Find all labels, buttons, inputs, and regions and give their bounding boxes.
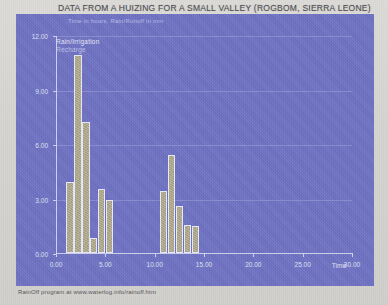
bar	[82, 122, 89, 253]
gridline	[56, 91, 352, 92]
footer-note: RainOff program at www.waterlog.info/rai…	[18, 289, 156, 295]
x-tick-label: 5.00	[85, 261, 125, 268]
plot-area: 0.003.006.009.0012.00 0.005.0010.0015.00…	[56, 36, 352, 254]
bar	[192, 226, 199, 253]
x-tick-mark	[352, 253, 353, 257]
x-tick-label: 25.00	[283, 261, 323, 268]
x-tick-label: 15.00	[184, 261, 224, 268]
y-tick-label: 12.00	[16, 33, 48, 40]
x-axis-line	[56, 253, 352, 254]
bar	[98, 189, 105, 253]
bar	[90, 238, 97, 253]
bar	[74, 55, 81, 253]
bar	[176, 206, 183, 253]
y-axis-line	[56, 36, 57, 254]
y-tick-label: 9.00	[16, 87, 48, 94]
page-title: DATA FROM A HUIZING FOR A SMALL VALLEY (…	[58, 3, 388, 13]
x-tick-label: 10.00	[135, 261, 175, 268]
y-tick-label: 3.00	[16, 196, 48, 203]
bar	[160, 191, 167, 253]
bar	[168, 155, 175, 253]
y-tick-label: 6.00	[16, 142, 48, 149]
gridline	[56, 36, 352, 37]
y-tick-label: 0.00	[16, 251, 48, 258]
bar	[184, 225, 191, 253]
scanned-page-background: DATA FROM A HUIZING FOR A SMALL VALLEY (…	[0, 0, 388, 305]
bar	[106, 200, 113, 253]
chart-subtitle: Time in hours, Rain/Runoff in mm	[68, 18, 163, 24]
bar	[66, 182, 73, 253]
gridline	[56, 145, 352, 146]
x-axis-title: Time	[332, 262, 346, 269]
chart-panel: Time in hours, Rain/Runoff in mm Rain/Ir…	[16, 14, 374, 286]
x-tick-label: 20.00	[233, 261, 273, 268]
x-tick-label: 0.00	[36, 261, 76, 268]
